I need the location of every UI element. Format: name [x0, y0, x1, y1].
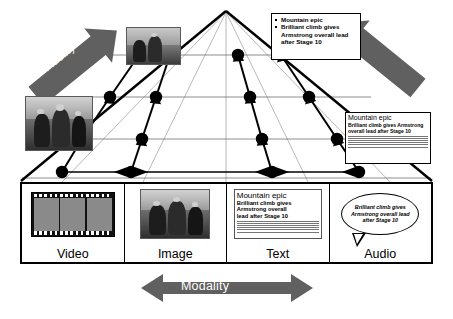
cyclists-photo [25, 96, 93, 151]
speech-bubble-icon: Brilliant climb gives Armstrong overall … [341, 193, 419, 235]
bullet-callout: Mountain epic Brilliant climb gives Arms… [271, 13, 361, 60]
sprocket-row-top [34, 194, 112, 197]
panel-video-content [22, 186, 124, 242]
panel-image-label: Image [125, 247, 227, 261]
panel-text-content: Mountain epic Brilliant climb gives Arms… [227, 186, 329, 242]
filmstrip-icon [31, 192, 115, 237]
article-subhead-line: lead after Stage 10 [237, 213, 319, 219]
article-body [237, 221, 319, 233]
speech-bubble-text: Brilliant climb gives Armstrong overall … [342, 204, 418, 223]
mini-article-subhead: Brilliant climb gives Armstrong overall … [348, 123, 428, 134]
panel-video-label: Video [22, 247, 124, 261]
panel-video[interactable]: Video [22, 184, 125, 262]
mini-article-headline: Mountain epic [348, 114, 428, 122]
text-article: Mountain epic Brilliant climb gives Arms… [234, 189, 322, 239]
modality-label: Modality [181, 279, 229, 293]
panel-audio-label: Audio [330, 247, 432, 261]
film-frame [87, 198, 112, 231]
panel-text[interactable]: Mountain epic Brilliant climb gives Arms… [227, 184, 330, 262]
photo-figure [149, 205, 165, 235]
sprocket-row-bottom [34, 231, 112, 234]
photo-head [56, 104, 63, 110]
modality-base-bar: Video Image Mountain epic [20, 182, 433, 264]
bullet-item: Brilliant climb gives Armstrong overall … [275, 23, 357, 45]
image-thumbnail [140, 189, 210, 239]
panel-image-content [125, 186, 227, 242]
speech-bubble-tail-inner [354, 234, 363, 244]
film-frame [60, 198, 85, 231]
article-headline: Mountain epic [237, 191, 319, 200]
mini-article-callout: Mountain epic Brilliant climb gives Arms… [345, 112, 431, 164]
photo-figure [133, 40, 146, 62]
panel-audio[interactable]: Brilliant climb gives Armstrong overall … [330, 184, 432, 262]
panel-text-label: Text [227, 247, 329, 261]
film-frame [34, 198, 59, 231]
photo-head [192, 202, 198, 207]
photo-head [153, 201, 160, 206]
mini-article-body [348, 136, 428, 148]
photo-figure [188, 207, 203, 235]
bullet-item: Mountain epic [275, 16, 357, 23]
photo-figure [34, 114, 50, 147]
photo-figure [72, 116, 87, 147]
photo-figure [168, 201, 186, 236]
panel-audio-content: Brilliant climb gives Armstrong overall … [330, 186, 432, 242]
mountain-landscape-photo [126, 27, 181, 65]
figure-canvas: Fidelity Fidelity Modality Mountain epic… [0, 0, 453, 319]
photo-figure [52, 109, 69, 147]
panel-image[interactable]: Image [125, 184, 228, 262]
photo-figure [148, 36, 162, 62]
photo-head [75, 111, 81, 116]
bullet-list: Mountain epic Brilliant climb gives Arms… [275, 16, 357, 45]
